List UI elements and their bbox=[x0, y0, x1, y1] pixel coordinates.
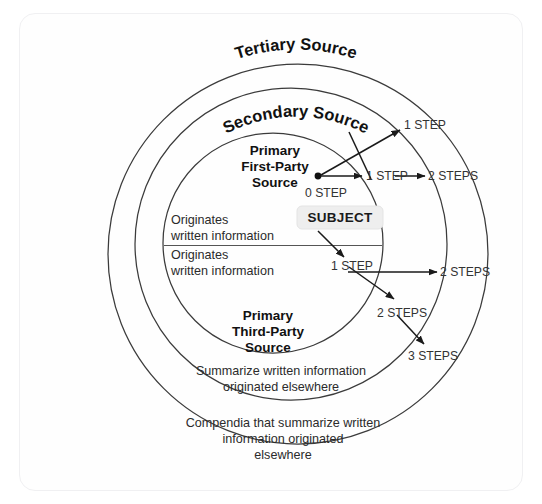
subject-label: SUBJECT bbox=[307, 210, 373, 225]
step-label-top-diagonal: 1 STEP bbox=[404, 118, 446, 132]
step-label-lower-three-steps: 3 STEPS bbox=[408, 349, 458, 363]
step-label-mid-two-steps: 2 STEPS bbox=[440, 265, 490, 279]
origin-dot bbox=[315, 173, 322, 180]
concentric-source-diagram: Tertiary Source Secondary Source Primary… bbox=[0, 0, 542, 504]
secondary-description-line1: Summarize written information bbox=[196, 364, 366, 378]
step-label-top-horizontal: 1 STEP bbox=[366, 169, 408, 183]
primary-third-party-line2: Third-Party bbox=[232, 324, 305, 339]
secondary-description-line2: originated elsewhere bbox=[223, 380, 339, 394]
step-label-top-two-steps: 2 STEPS bbox=[428, 169, 478, 183]
diagram-canvas: Tertiary Source Secondary Source Primary… bbox=[0, 0, 542, 504]
arrow-subject-to-one-step bbox=[318, 231, 344, 257]
first-party-description-line1: Originates bbox=[171, 213, 228, 227]
primary-third-party-line1: Primary bbox=[243, 308, 294, 323]
tertiary-source-label: Tertiary Source bbox=[233, 35, 360, 62]
primary-first-party-line1: Primary bbox=[250, 143, 301, 158]
primary-third-party-line3: Source bbox=[245, 340, 291, 355]
step-label-lower-two-steps: 2 STEPS bbox=[377, 306, 427, 320]
primary-first-party-line3: Source bbox=[252, 175, 298, 190]
tertiary-description-line2: information originated bbox=[222, 432, 343, 446]
primary-first-party-line2: First-Party bbox=[241, 159, 309, 174]
first-party-description-line2: written information bbox=[170, 229, 274, 243]
third-party-description-line2: written information bbox=[170, 264, 274, 278]
third-party-description-line1: Originates bbox=[171, 248, 228, 262]
secondary-source-label: Secondary Source bbox=[220, 102, 373, 137]
step-label-mid-one-step: 1 STEP bbox=[331, 259, 373, 273]
tertiary-description-line1: Compendia that summarize written bbox=[186, 416, 381, 430]
tertiary-description-line3: elsewhere bbox=[254, 448, 311, 462]
step-label-origin: 0 STEP bbox=[305, 186, 347, 200]
